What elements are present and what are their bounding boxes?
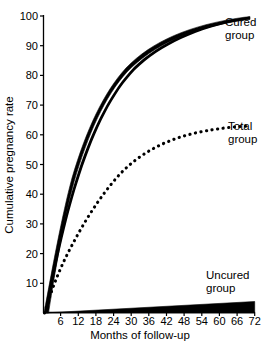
chart-figure: 100 90 80 70 60 50 40 30 20 10 xyxy=(0,0,279,344)
x-tick-label-66: 66 xyxy=(231,315,243,327)
annotation-cured-line1: Cured xyxy=(225,16,256,28)
x-tick-label-60: 60 xyxy=(213,315,225,327)
x-tick-label-24: 24 xyxy=(107,315,119,327)
y-tick-label-90: 90 xyxy=(26,40,38,52)
x-tick-label-12: 12 xyxy=(72,315,84,327)
chart-canvas: 100 90 80 70 60 50 40 30 20 10 xyxy=(0,0,279,344)
x-tick-label-30: 30 xyxy=(125,315,137,327)
y-tick-label-30: 30 xyxy=(26,218,38,230)
annotation-cured-line2: group xyxy=(225,29,254,41)
x-tick-label-36: 36 xyxy=(143,315,155,327)
annotation-total-line1: Total xyxy=(228,120,252,132)
y-tick-label-20: 20 xyxy=(26,248,38,260)
x-axis-title: Months of follow-up xyxy=(90,329,190,341)
y-tick-label-50: 50 xyxy=(26,159,38,171)
annotation-total-line2: group xyxy=(228,133,257,145)
y-tick-label-80: 80 xyxy=(26,69,38,81)
x-tick-label-42: 42 xyxy=(160,315,172,327)
annotation-cured: Cured group xyxy=(225,16,256,41)
annotation-uncured-line2: group xyxy=(206,282,235,294)
annotation-uncured-line1: Uncured xyxy=(206,269,249,281)
y-tick-label-100: 100 xyxy=(20,10,38,22)
y-tick-label-40: 40 xyxy=(26,188,38,200)
x-tick-label-54: 54 xyxy=(196,315,208,327)
x-tick-label-72: 72 xyxy=(249,315,261,327)
x-tick-label-18: 18 xyxy=(90,315,102,327)
y-axis-title: Cumulative pregnancy rate xyxy=(3,96,15,233)
chart-background xyxy=(0,0,279,344)
x-tick-label-6: 6 xyxy=(58,315,64,327)
y-tick-label-60: 60 xyxy=(26,129,38,141)
y-tick-label-10: 10 xyxy=(26,277,38,289)
y-tick-label-70: 70 xyxy=(26,99,38,111)
x-tick-label-48: 48 xyxy=(178,315,190,327)
